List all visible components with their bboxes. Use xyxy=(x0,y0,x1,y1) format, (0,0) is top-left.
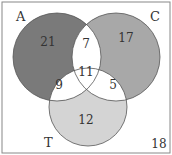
region-a-t: 9 xyxy=(55,78,63,92)
region-a-c-t: 11 xyxy=(78,65,93,79)
region-outside: 18 xyxy=(151,137,166,151)
region-a-only: 21 xyxy=(40,35,55,49)
set-t-label: T xyxy=(44,135,53,150)
region-t-only: 12 xyxy=(78,113,93,127)
set-c-label: C xyxy=(150,9,160,24)
set-a-label: A xyxy=(15,9,26,24)
venn-diagram: A C T 21 17 7 11 9 5 12 18 xyxy=(0,0,172,155)
region-c-t: 5 xyxy=(109,78,117,92)
region-a-c: 7 xyxy=(82,37,90,51)
region-c-only: 17 xyxy=(118,31,133,45)
